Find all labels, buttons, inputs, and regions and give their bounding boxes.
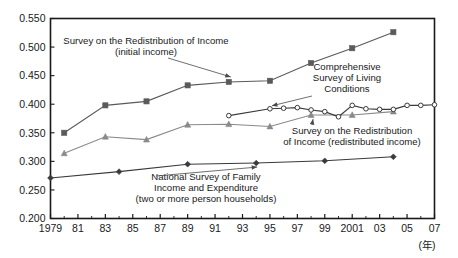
data-point [268,106,273,111]
annotation-line: Conditions [324,83,370,94]
annotations-group: Survey on the Redistribution of Income(i… [63,35,420,204]
x-axis-tick-label: 97 [292,222,304,234]
data-point [144,99,149,104]
data-point [336,114,341,119]
annotation-line: (two or more person households) [136,193,277,204]
annotation-line: National Survey of Family [151,171,261,182]
annotation-line: Survey of Living [313,72,381,83]
data-point [226,79,231,84]
data-point [62,130,67,135]
x-axis-tick-label: 81 [72,222,84,234]
annotation-family-income-expenditure: National Survey of FamilyIncome and Expe… [136,165,277,204]
gini-coefficient-line-chart: 0.5500.5000.4500.4000.3500.3000.2500.200… [0,0,458,258]
annotation-line: (initial income) [115,46,177,57]
x-axis: 1979818385878991939597992001030507 [39,214,441,234]
annotation-redistributed-income: Survey on the Redistributionof Income (r… [283,119,421,147]
data-point [405,103,410,108]
x-axis-unit-label: (年) [419,239,436,251]
data-point [295,105,300,110]
annotation-arrowhead [272,102,278,106]
y-axis-tick-label: 0.350 [19,127,45,139]
data-point [432,102,437,107]
data-point [309,108,314,113]
y-axis: 0.5500.5000.4500.4000.3500.3000.2500.200 [19,12,54,224]
x-axis-tick-label: 99 [319,222,331,234]
x-axis-tick-label: 1979 [39,222,63,234]
data-series-group [48,30,437,181]
data-point [253,160,259,166]
annotation-line: Comprehensive [313,61,380,72]
annotation-line: Survey on the Redistribution [292,125,413,136]
annotation-leader [168,58,231,77]
y-axis-tick-label: 0.500 [19,41,45,53]
annotation-arrowhead [310,119,315,125]
y-axis-tick-label: 0.400 [19,98,45,110]
data-point [391,107,396,112]
data-point [48,175,54,181]
annotation-line: of Income (redistributed income) [283,136,421,147]
data-point [103,103,108,108]
annotation-initial-income: Survey on the Redistribution of Income(i… [63,35,230,78]
data-point [185,161,191,167]
data-point [418,103,423,108]
x-axis-tick-label: 83 [100,222,112,234]
y-axis-tick-label: 0.300 [19,155,45,167]
series-2 [226,102,436,119]
x-axis-tick-label: 85 [127,222,139,234]
x-axis-tick-label: 93 [237,222,249,234]
data-point [267,78,272,83]
x-axis-tick-label: 87 [154,222,166,234]
data-point [377,107,382,112]
x-axis-tick-label: 91 [209,222,221,234]
data-point [364,106,369,111]
data-point [350,103,355,108]
y-axis-tick-label: 0.250 [19,184,45,196]
x-axis-tick-label: 2001 [341,222,365,234]
data-point [350,46,355,51]
annotation-arrowhead [225,73,231,77]
data-point [391,30,396,35]
y-axis-tick-label: 0.550 [19,12,45,24]
x-axis-tick-label: 89 [182,222,194,234]
x-axis-tick-label: 95 [264,222,276,234]
data-point [185,83,190,88]
data-point [226,113,231,118]
data-point [390,154,396,160]
chart-canvas: 0.5500.5000.4500.4000.3500.3000.2500.200… [0,0,458,258]
x-axis-tick-label: 07 [429,222,441,234]
annotation-living-conditions: ComprehensiveSurvey of LivingConditions [272,61,381,107]
data-point [281,106,286,111]
y-axis-tick-label: 0.450 [19,69,45,81]
x-axis-tick-label: 05 [401,222,413,234]
annotation-leader [272,96,312,106]
annotation-line: Survey on the Redistribution of Income [63,35,228,46]
annotation-line: Income and Expenditure [154,182,258,193]
data-point [322,158,328,164]
data-point [322,109,327,114]
x-axis-tick-label: 03 [374,222,386,234]
data-point [116,169,122,175]
